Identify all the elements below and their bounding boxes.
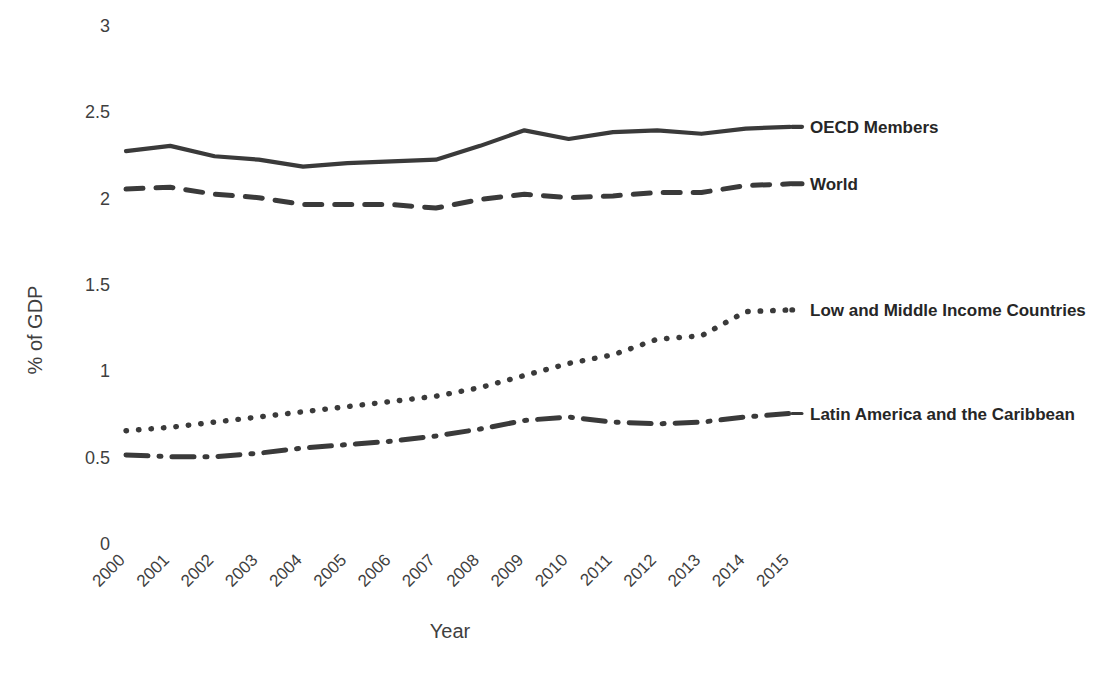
x-tick-label: 2002 xyxy=(177,550,217,590)
series-label: Low and Middle Income Countries xyxy=(810,301,1086,320)
x-tick-label: 2015 xyxy=(753,550,793,590)
x-axis-title: Year xyxy=(430,620,471,642)
x-tick-label: 2014 xyxy=(708,550,748,590)
x-tick-label: 2011 xyxy=(576,550,615,589)
series-label: OECD Members xyxy=(810,118,938,137)
x-tick-label: 2004 xyxy=(266,550,306,590)
series-lines-group xyxy=(126,127,790,457)
chart-container: 00.511.522.53 20002001200220032004200520… xyxy=(0,0,1103,674)
y-tick-label: 0.5 xyxy=(85,448,110,468)
series-label: Latin America and the Caribbean xyxy=(810,405,1075,424)
x-tick-label: 2003 xyxy=(221,550,261,590)
y-tick-label: 1.5 xyxy=(85,275,110,295)
series-line xyxy=(126,127,790,167)
y-axis-tick-labels: 00.511.522.53 xyxy=(85,16,110,554)
y-tick-label: 2 xyxy=(100,189,110,209)
x-tick-label: 2001 xyxy=(133,550,173,590)
x-tick-label: 2008 xyxy=(443,550,483,590)
y-tick-label: 2.5 xyxy=(85,102,110,122)
y-axis-title: % of GDP xyxy=(24,286,46,375)
x-tick-label: 2009 xyxy=(487,550,527,590)
x-tick-label: 2007 xyxy=(399,550,439,590)
y-tick-label: 0 xyxy=(100,534,110,554)
series-line xyxy=(126,184,790,208)
y-tick-label: 1 xyxy=(100,361,110,381)
y-tick-label: 3 xyxy=(100,16,110,36)
series-inline-labels: OECD MembersWorldLow and Middle Income C… xyxy=(792,118,1086,424)
x-tick-label: 2013 xyxy=(664,550,704,590)
series-label: World xyxy=(810,175,858,194)
x-tick-label: 2006 xyxy=(354,550,394,590)
x-tick-label: 2005 xyxy=(310,550,350,590)
x-tick-label: 2012 xyxy=(620,550,660,590)
line-chart: 00.511.522.53 20002001200220032004200520… xyxy=(0,0,1103,674)
x-tick-label: 2010 xyxy=(531,550,571,590)
x-tick-label: 2000 xyxy=(89,550,129,590)
series-line xyxy=(126,310,790,431)
x-axis-tick-labels: 2000200120022003200420052006200720082009… xyxy=(89,550,793,590)
